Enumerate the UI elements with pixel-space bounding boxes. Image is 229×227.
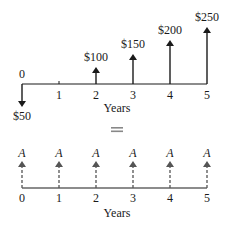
bottom-tick-label-3: 3 — [130, 191, 136, 205]
inflow-label-year3: $150 — [121, 37, 145, 51]
top-timeline: 0 1 2 3 4 5 $50 $100 $150 $200 $250 Year… — [13, 10, 219, 123]
inflow-label-year2: $100 — [84, 50, 108, 64]
top-tick-label-4: 4 — [167, 88, 173, 102]
bottom-axis-title: Years — [104, 206, 131, 220]
top-origin-label: 0 — [19, 67, 25, 81]
annuity-label-0: A — [17, 146, 26, 160]
top-tick-label-5: 5 — [204, 88, 210, 102]
annuity-label-2: A — [91, 146, 100, 160]
annuity-label-5: A — [202, 146, 211, 160]
equals-sign-icon — [111, 127, 123, 132]
bottom-tick-label-5: 5 — [204, 191, 210, 205]
cash-flow-diagram: 0 1 2 3 4 5 $50 $100 $150 $200 $250 Year… — [0, 0, 229, 227]
bottom-tick-label-0: 0 — [19, 191, 25, 205]
bottom-timeline: A A A A A A 0 1 2 3 4 5 Years — [17, 146, 211, 220]
top-tick-label-3: 3 — [130, 88, 136, 102]
outflow-label: $50 — [13, 109, 31, 123]
bottom-tick-label-2: 2 — [93, 191, 99, 205]
inflow-label-year5: $250 — [195, 10, 219, 24]
bottom-tick-label-1: 1 — [56, 191, 62, 205]
top-axis-title: Years — [104, 101, 131, 115]
top-tick-label-2: 2 — [93, 88, 99, 102]
inflow-label-year4: $200 — [158, 23, 182, 37]
annuity-label-1: A — [54, 146, 63, 160]
annuity-label-3: A — [128, 146, 137, 160]
annuity-label-4: A — [165, 146, 174, 160]
bottom-tick-label-4: 4 — [167, 191, 173, 205]
top-tick-label-1: 1 — [56, 88, 62, 102]
